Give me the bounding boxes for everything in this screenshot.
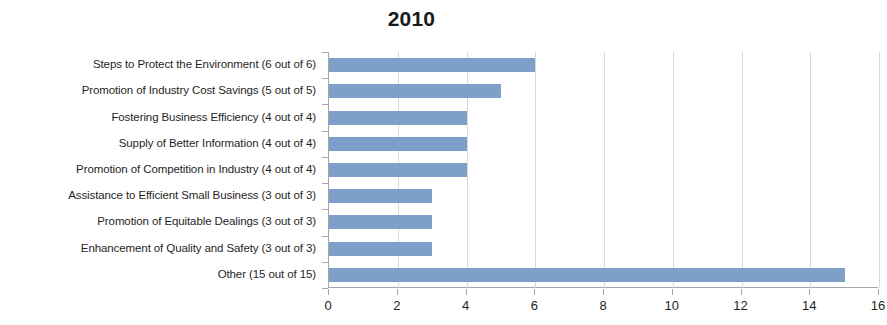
category-label: Other (15 out of 15) [2, 268, 316, 281]
x-axis-tick-label: 4 [446, 298, 486, 313]
x-axis-tick [397, 289, 398, 295]
bar [329, 137, 467, 151]
gridline [810, 52, 811, 288]
x-axis-tick [672, 289, 673, 295]
category-label: Fostering Business Efficiency (4 out of … [2, 111, 316, 124]
x-axis-tick-label: 6 [514, 298, 554, 313]
bar [329, 242, 432, 256]
gridline [742, 52, 743, 288]
category-label: Supply of Better Information (4 out of 4… [2, 137, 316, 150]
gridline [673, 52, 674, 288]
y-axis-tick [322, 52, 328, 53]
plot-area [328, 52, 878, 288]
y-axis-tick [322, 157, 328, 158]
y-axis-tick [322, 236, 328, 237]
x-axis-tick [466, 289, 467, 295]
y-axis-tick [322, 78, 328, 79]
bar [329, 111, 467, 125]
x-axis-tick [534, 289, 535, 295]
x-axis-tick-label: 10 [652, 298, 692, 313]
chart-title: 2010 [0, 5, 855, 33]
y-axis-tick [322, 209, 328, 210]
bar-chart: 2010 Steps to Protect the Environment (6… [0, 0, 887, 325]
category-label: Promotion of Competition in Industry (4 … [2, 163, 316, 176]
x-axis-tick-label: 12 [721, 298, 761, 313]
bar [329, 189, 432, 203]
x-axis-tick-label: 14 [789, 298, 829, 313]
y-axis-category-labels: Steps to Protect the Environment (6 out … [4, 52, 322, 288]
x-axis-tick-label: 0 [308, 298, 348, 313]
x-axis-tick [878, 289, 879, 295]
gridline [604, 52, 605, 288]
bar [329, 268, 845, 282]
x-axis-tick [603, 289, 604, 295]
category-label: Steps to Protect the Environment (6 out … [2, 58, 316, 71]
x-axis-tick [809, 289, 810, 295]
gridline [879, 52, 880, 288]
y-axis-tick [322, 183, 328, 184]
x-axis-tick-label: 2 [377, 298, 417, 313]
bar [329, 58, 535, 72]
category-label: Assistance to Efficient Small Business (… [2, 189, 316, 202]
bar [329, 163, 467, 177]
category-label: Promotion of Equitable Dealings (3 out o… [2, 215, 316, 228]
x-axis-tick [741, 289, 742, 295]
gridline [535, 52, 536, 288]
bar [329, 84, 501, 98]
category-label: Enhancement of Quality and Safety (3 out… [2, 242, 316, 255]
y-axis-tick [322, 262, 328, 263]
x-axis-tick-label: 8 [583, 298, 623, 313]
y-axis-tick [322, 131, 328, 132]
y-axis-tick [322, 104, 328, 105]
x-axis-tick [328, 289, 329, 295]
x-axis-tick-label: 16 [858, 298, 887, 313]
category-label: Promotion of Industry Cost Savings (5 ou… [2, 84, 316, 97]
bar [329, 215, 432, 229]
